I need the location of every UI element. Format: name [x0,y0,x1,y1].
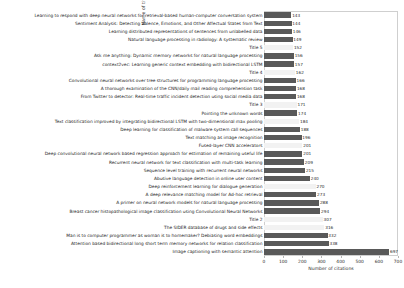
bar-category-label: Text matching as image recognition [0,135,264,140]
bar [264,184,316,189]
bar [264,208,320,213]
bar-category-label: Convolutional neural networks over tree … [0,78,264,83]
bar-row: Attention based bidirectional long short… [0,240,398,248]
bar-row: Abusive language detection in online use… [0,174,398,182]
bar-track: 144 [264,19,398,27]
bar-value-label: 273 [317,192,325,197]
bar-category-label: Text classification improved by integrat… [0,119,264,124]
bar-category-label: From Twitter to detector: Real-time traf… [0,94,264,99]
bar-track: 188 [264,125,398,133]
bar-track: 149 [264,36,398,44]
bar-row: Convolutional neural networks over tree … [0,76,398,84]
bar-track: 157 [264,60,398,68]
bar-value-label: 188 [301,127,309,132]
bar [264,37,293,42]
bar-category-label: Abusive language detection in online use… [0,176,264,181]
bar-value-label: 162 [296,70,304,75]
bar-value-label: 166 [297,78,305,83]
bar-category-label: A thorough examination of the CNN/daily … [0,86,264,91]
bar-track: 338 [264,240,398,248]
bar-track: 273 [264,191,398,199]
bar-value-label: 152 [294,45,302,50]
bar-track: 215 [264,166,398,174]
bar [264,200,319,205]
bar-category-label: Attention based bidirectional long short… [0,241,264,246]
bar [264,225,324,230]
x-axis-title: Number of citations [264,266,398,271]
bar-category-label: Ask me anything: Dynamic memory networks… [0,53,264,58]
bar-row: Learning distributed representations of … [0,27,398,35]
bar-row: Title 4162 [0,68,398,76]
bar-row: Breast cancer histopathological image cl… [0,207,398,215]
bar-category-label: Deep convolutional neural network based … [0,151,264,156]
bar [264,119,299,124]
bar-track: 201 [264,150,398,158]
bar-track: 209 [264,158,398,166]
bar-value-label: 201 [303,143,311,148]
bar-row: context2vec: Learning generic context em… [0,60,398,68]
bar-track: 332 [264,232,398,240]
x-tick-label: 200 [298,259,306,264]
bar-value-label: 146 [293,29,301,34]
bar-value-label: 338 [329,241,337,246]
bar [264,159,304,164]
bar-row: A thorough examination of the CNN/daily … [0,85,398,93]
bar-row: Title 2307 [0,215,398,223]
bar-row: Natural language processing in radiology… [0,36,398,44]
bar-value-label: 184 [300,119,308,124]
bar-category-label: A primer on neural network models for na… [0,200,264,205]
bar-value-label: 168 [297,86,305,91]
bar-rows: Learning to respond with deep neural net… [0,11,398,256]
bar-category-label: Image captioning with semantic attention [0,249,264,254]
bar-track: 143 [264,11,398,19]
bar [264,151,302,156]
bar-track: 162 [264,68,398,76]
bar [264,143,302,148]
bar-category-label: context2vec: Learning generic context em… [0,62,264,67]
bar-category-label: Deep learning for classification of malw… [0,127,264,132]
bar-row: Pointing the unknown words174 [0,109,398,117]
bar-row: Man is to computer programmer as woman i… [0,232,398,240]
bar-row: Title 3171 [0,101,398,109]
bar [264,53,294,58]
bar-track: 166 [264,76,398,84]
bar-row: From Twitter to detector: Real-time traf… [0,93,398,101]
bar-value-label: 171 [298,102,306,107]
bar-row: Title 5152 [0,44,398,52]
bar-row: Sentiment Analysis: Detecting Valence, E… [0,19,398,27]
bar-track: 240 [264,174,398,182]
x-axis: 0100200300400500600700 Number of citatio… [264,256,398,280]
bar-value-label: 168 [297,94,305,99]
bar [264,86,296,91]
bar-value-label: 149 [293,37,301,42]
bar-track: 168 [264,85,398,93]
bar-value-label: 143 [292,13,300,18]
bar-category-label: Learning distributed representations of … [0,29,264,34]
x-tick-label: 0 [263,259,266,264]
bar [264,45,293,50]
bar [264,110,297,115]
bar-track: 146 [264,27,398,35]
bar [264,135,302,140]
bar-row: Deep convolutional neural network based … [0,150,398,158]
bar-track: 156 [264,52,398,60]
bar-row: A primer on neural network models for na… [0,199,398,207]
bar-row: A deep relevance matching model for Ad-h… [0,191,398,199]
bar [264,241,329,246]
bar [264,94,296,99]
bar-value-label: 240 [311,176,319,181]
bar [264,233,328,238]
bar-value-label: 174 [298,111,306,116]
bar-track: 152 [264,44,398,52]
bar-value-label: 209 [305,160,313,165]
bar-row: Image captioning with semantic attention… [0,248,398,256]
bar [264,127,300,132]
bar-category-label: Man is to computer programmer as woman i… [0,233,264,238]
y-axis-title-container: Name of title [2,0,12,10]
x-tick-label: 300 [317,259,325,264]
bar [264,192,316,197]
bar-track: 316 [264,223,398,231]
bar-value-label: 332 [328,233,336,238]
bar-row: Deep learning for classification of malw… [0,125,398,133]
bar-value-label: 157 [295,62,303,67]
